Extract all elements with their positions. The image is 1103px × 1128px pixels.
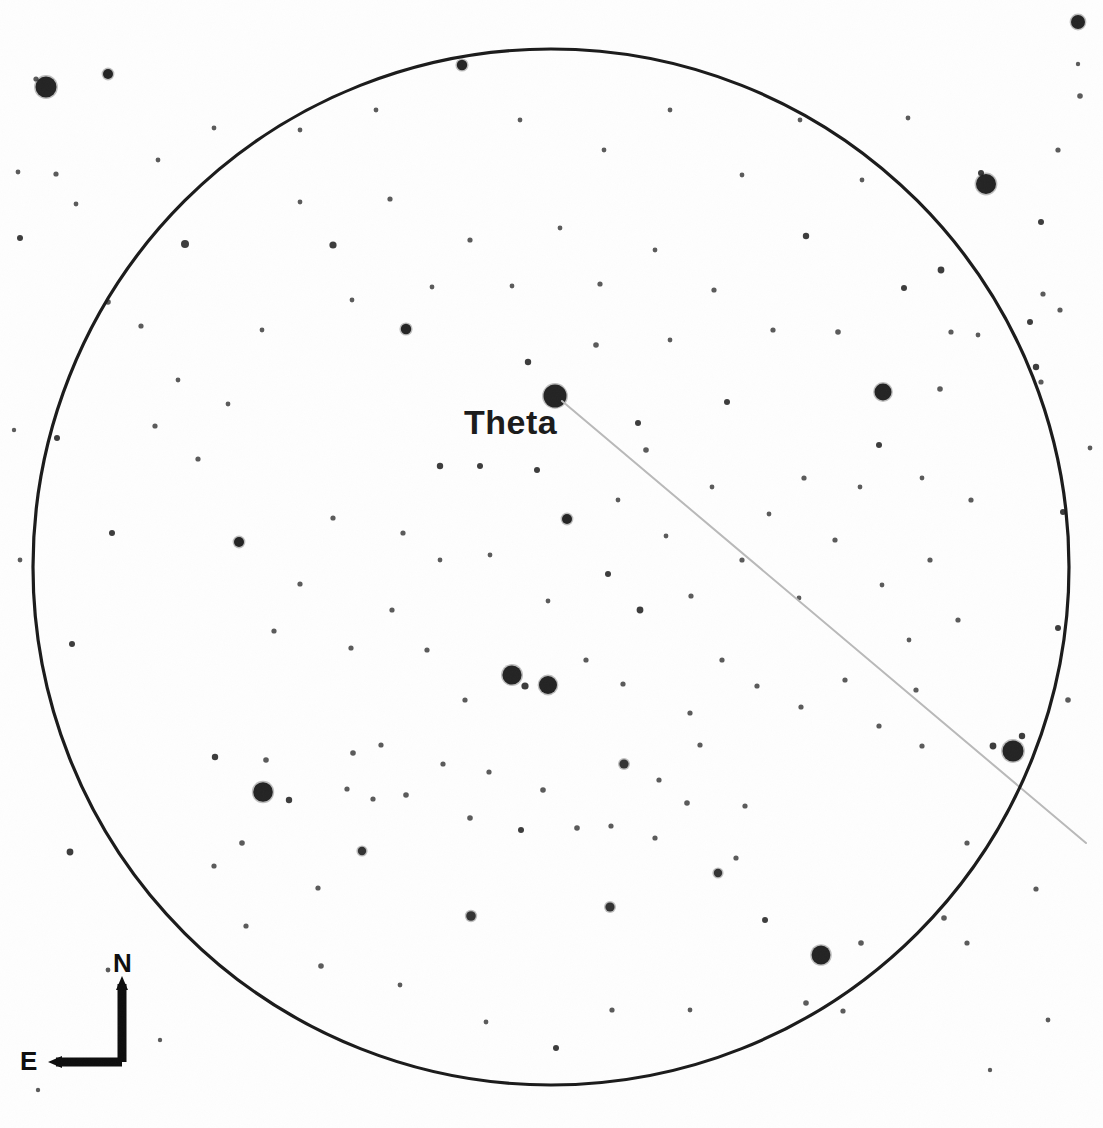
star-point <box>389 607 394 612</box>
star-point <box>1046 1018 1051 1023</box>
star-point <box>941 915 947 921</box>
star-point <box>605 571 611 577</box>
star-point <box>798 704 803 709</box>
star-point <box>656 777 661 782</box>
star-point <box>697 742 702 747</box>
star-point <box>484 1020 489 1025</box>
star-point <box>318 963 324 969</box>
star-point <box>263 757 269 763</box>
star-point <box>152 423 157 428</box>
star-point <box>212 754 218 760</box>
compass-east-label: E <box>20 1048 37 1074</box>
star-point <box>906 116 911 121</box>
star-point <box>378 742 383 747</box>
star-point <box>684 800 690 806</box>
star-point <box>501 664 523 686</box>
star-point <box>801 475 806 480</box>
star-point <box>69 641 75 647</box>
star-point <box>1076 62 1080 66</box>
star-point <box>558 226 563 231</box>
star-point <box>913 687 918 692</box>
star-point <box>211 863 216 868</box>
star-point <box>403 792 409 798</box>
theta-pointer-line <box>562 401 1086 843</box>
star-point <box>767 512 772 517</box>
star-point <box>1019 733 1025 739</box>
star-point <box>602 148 607 153</box>
star-point <box>948 329 953 334</box>
star-point <box>810 944 832 966</box>
star-point <box>298 200 303 205</box>
star-point <box>976 333 981 338</box>
star-point <box>754 683 759 688</box>
star-point <box>719 657 724 662</box>
star-point <box>356 845 367 856</box>
star-point <box>643 447 649 453</box>
star-point <box>33 76 38 81</box>
star-point <box>803 233 809 239</box>
star-point <box>465 910 477 922</box>
star-point <box>988 1068 992 1072</box>
star-point <box>18 558 23 563</box>
star-point <box>635 420 641 426</box>
star-point <box>1088 446 1093 451</box>
star-point <box>876 723 881 728</box>
star-point <box>12 428 16 432</box>
star-point <box>260 328 265 333</box>
star-point <box>67 849 74 856</box>
star-point <box>176 378 181 383</box>
star-point <box>16 170 21 175</box>
star-point <box>518 827 524 833</box>
compass-marker-layer <box>48 976 128 1068</box>
star-point <box>907 638 912 643</box>
star-point <box>597 281 602 286</box>
star-point <box>518 118 523 123</box>
star-point <box>880 583 885 588</box>
star-point <box>561 513 574 526</box>
star-point <box>978 170 984 176</box>
star-point <box>873 382 893 402</box>
star-point <box>798 118 803 123</box>
star-point <box>604 901 616 913</box>
star-point <box>102 68 115 81</box>
star-point <box>1038 219 1044 225</box>
star-point <box>1065 697 1071 703</box>
star-point <box>109 530 115 536</box>
star-point <box>1033 886 1038 891</box>
star-point <box>688 593 693 598</box>
star-point <box>927 557 932 562</box>
field-of-view-circle <box>33 49 1069 1085</box>
star-point <box>688 1008 693 1013</box>
star-point <box>348 645 353 650</box>
star-point <box>1055 625 1061 631</box>
star-point <box>252 781 274 803</box>
star-point <box>762 917 768 923</box>
star-point <box>138 323 143 328</box>
star-point <box>608 823 613 828</box>
star-point <box>467 237 472 242</box>
star-point <box>181 240 189 248</box>
star-point <box>618 758 630 770</box>
star-point <box>990 743 997 750</box>
star-point <box>455 58 468 71</box>
star-point <box>668 338 673 343</box>
star-point <box>901 285 907 291</box>
star-point <box>858 940 864 946</box>
star-point <box>842 677 847 682</box>
star-point <box>583 657 588 662</box>
star-point <box>158 1038 162 1042</box>
star-layer <box>12 14 1093 1093</box>
star-point <box>835 329 841 335</box>
star-point <box>437 463 443 469</box>
star-point <box>770 327 775 332</box>
star-point <box>212 126 217 131</box>
star-point <box>1038 379 1043 384</box>
star-point <box>540 787 546 793</box>
star-point <box>710 485 715 490</box>
star-point <box>195 456 200 461</box>
star-point <box>298 128 303 133</box>
star-point <box>330 515 335 520</box>
star-point <box>53 171 58 176</box>
star-point <box>488 553 493 558</box>
star-point <box>430 285 435 290</box>
